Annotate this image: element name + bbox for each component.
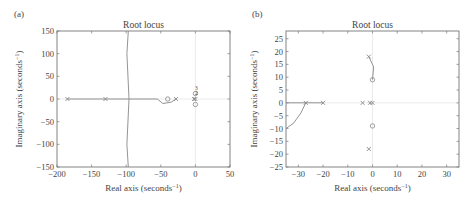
plot-panel-b: (b)Root locus−30−20−1001020302520151050−… (249, 9, 459, 193)
locus-branch (286, 103, 306, 129)
y-tick-label: −100 (36, 139, 54, 149)
y-tick-label: 0 (279, 98, 283, 108)
x-tick-label: 0 (370, 169, 374, 179)
y-axis-label: Imaginary axis (seconds−1) (249, 51, 259, 148)
y-tick-label: −20 (270, 149, 283, 159)
x-axis-label: Real axis (seconds−1) (105, 183, 181, 193)
y-tick-label: −10 (270, 124, 283, 134)
chart-title: Root locus (352, 20, 393, 30)
x-tick-label: −50 (154, 169, 167, 179)
panel-tag: (a) (14, 9, 24, 19)
y-tick-label: −25 (270, 162, 283, 172)
y-tick-label: 150 (41, 26, 54, 36)
x-axis-label: Real axis (seconds−1) (334, 183, 410, 193)
y-tick-label: 5 (279, 85, 283, 95)
x-tick-label: −20 (316, 169, 329, 179)
y-tick-label: −5 (274, 111, 283, 121)
y-tick-label: −150 (36, 162, 54, 172)
y-axis-label: Imaginary axis (seconds−1) (14, 51, 24, 148)
pole-marker (367, 55, 371, 59)
x-tick-label: 30 (442, 169, 451, 179)
plot-panel-a: (a)Root locus−200−150−100−50050150100500… (14, 9, 234, 193)
x-tick-label: −30 (292, 169, 305, 179)
panel-tag: (b) (252, 9, 263, 19)
y-tick-label: 20 (275, 47, 284, 57)
x-tick-label: −10 (341, 169, 354, 179)
y-tick-label: −50 (41, 117, 54, 127)
chart-title: Root locus (123, 20, 164, 30)
x-tick-label: 0 (193, 169, 197, 179)
y-tick-label: 100 (41, 49, 54, 59)
locus-branch (369, 57, 374, 80)
x-tick-label: −100 (117, 169, 135, 179)
y-tick-label: 15 (275, 59, 284, 69)
x-tick-label: 10 (393, 169, 402, 179)
y-tick-label: 0 (50, 94, 54, 104)
root-locus-figure: (a)Root locus−200−150−100−50050150100500… (0, 0, 475, 206)
pole-marker (367, 147, 371, 151)
y-tick-label: 25 (275, 34, 284, 44)
x-tick-label: 50 (226, 169, 235, 179)
y-tick-label: 10 (275, 72, 284, 82)
x-tick-label: −150 (83, 169, 101, 179)
annotation-label: 2 (195, 90, 198, 96)
x-tick-label: 20 (418, 169, 427, 179)
y-tick-label: 50 (46, 71, 55, 81)
y-tick-label: −15 (270, 136, 283, 146)
